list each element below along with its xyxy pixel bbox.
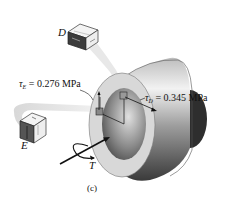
label-point-E: E (21, 140, 28, 151)
label-tau-E: τE = 0.276 MPa (19, 79, 81, 90)
figure-caption: (c) (87, 184, 97, 193)
label-point-D: D (58, 27, 66, 38)
tau-E-value: = 0.276 MPa (26, 78, 81, 89)
label-tau-D: τD = 0.345 MPa (145, 93, 207, 104)
element-D-on-shaft (120, 92, 127, 99)
tau-D-value: = 0.345 MPa (153, 92, 208, 103)
label-torque-T: T (89, 160, 95, 171)
shaft-torsion-diagram: D E T (c) τE = 0.276 MPa τD = 0.345 MPa (0, 0, 227, 207)
element-E-on-shaft (96, 108, 103, 115)
